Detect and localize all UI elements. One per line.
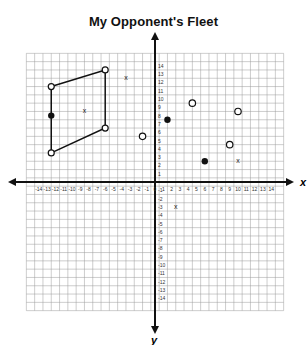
y-tick-label: -11 bbox=[158, 270, 165, 276]
parallelogram-vertex bbox=[102, 125, 108, 131]
miss-marker bbox=[189, 100, 195, 106]
y-tick-label: -7 bbox=[158, 237, 163, 243]
x-tick-label: -13 bbox=[43, 186, 50, 192]
y-tick-label: -2 bbox=[158, 196, 163, 202]
x-tick-label: 8 bbox=[220, 186, 223, 192]
hit-marker bbox=[48, 112, 54, 118]
x-tick-label: -7 bbox=[95, 186, 100, 192]
y-tick-label: 4 bbox=[158, 146, 161, 152]
y-tick-label: -8 bbox=[158, 245, 163, 251]
x-tick-label: -5 bbox=[111, 186, 116, 192]
hit-marker bbox=[164, 117, 170, 123]
x-tick-label: 9 bbox=[228, 186, 231, 192]
y-tick-label: -4 bbox=[158, 212, 163, 218]
x-tick-label: 0 bbox=[154, 186, 157, 192]
x-tick-label: 7 bbox=[212, 186, 215, 192]
y-tick-label: -3 bbox=[158, 204, 163, 210]
y-tick-label: -6 bbox=[158, 229, 163, 235]
y-tick-label: 3 bbox=[158, 154, 161, 160]
parallelogram-vertex bbox=[48, 150, 54, 156]
x-tick-label: 2 bbox=[170, 186, 173, 192]
y-tick-label: -12 bbox=[158, 279, 165, 285]
x-tick-label: -1 bbox=[144, 186, 149, 192]
x-tick-label: 4 bbox=[187, 186, 190, 192]
miss-marker bbox=[235, 108, 241, 114]
x-marker: x bbox=[236, 157, 240, 164]
y-tick-label: 14 bbox=[158, 63, 164, 69]
x-tick-label: -10 bbox=[68, 186, 75, 192]
y-tick-label: 1 bbox=[158, 171, 161, 177]
y-axis-arrow-up bbox=[151, 32, 159, 40]
hit-marker bbox=[202, 158, 208, 164]
x-tick-label: 10 bbox=[235, 186, 241, 192]
y-tick-label: 2 bbox=[158, 162, 161, 168]
x-tick-label: -12 bbox=[52, 186, 59, 192]
y-tick-label: 12 bbox=[158, 79, 164, 85]
x-marker: x bbox=[124, 74, 128, 81]
parallelogram-vertex bbox=[102, 67, 108, 73]
miss-marker bbox=[227, 141, 233, 147]
y-tick-label: -1 bbox=[158, 187, 163, 193]
y-tick-label: 5 bbox=[158, 138, 161, 144]
x-axis-arrow-left bbox=[8, 178, 16, 186]
y-tick-label: -10 bbox=[158, 262, 165, 268]
y-tick-label: -14 bbox=[158, 295, 165, 301]
x-tick-label: -6 bbox=[103, 186, 108, 192]
y-tick-label: 9 bbox=[158, 104, 161, 110]
x-tick-label: -3 bbox=[128, 186, 133, 192]
x-tick-label: 5 bbox=[195, 186, 198, 192]
x-tick-label: 6 bbox=[203, 186, 206, 192]
x-tick-label: 12 bbox=[252, 186, 258, 192]
y-tick-label: 10 bbox=[158, 96, 164, 102]
y-tick-label: 7 bbox=[158, 121, 161, 127]
x-tick-label: 3 bbox=[179, 186, 182, 192]
y-tick-label: -13 bbox=[158, 287, 165, 293]
y-tick-label: 6 bbox=[158, 129, 161, 135]
x-axis-label: x bbox=[299, 176, 307, 188]
x-tick-label: -9 bbox=[78, 186, 83, 192]
x-tick-label: -14 bbox=[35, 186, 42, 192]
y-axis-label: y bbox=[150, 334, 158, 345]
x-marker: x bbox=[174, 203, 178, 210]
chart-container: My Opponent's Fleet xy-14-13-12-11-10-9-… bbox=[0, 0, 307, 345]
y-tick-label: 11 bbox=[158, 88, 163, 94]
coordinate-plane: xy-14-13-12-11-10-9-8-7-6-5-4-3-2-101234… bbox=[0, 0, 307, 345]
y-axis-arrow-down bbox=[151, 326, 159, 334]
y-tick-label: -5 bbox=[158, 221, 163, 227]
parallelogram-vertex bbox=[48, 84, 54, 90]
y-tick-label: -9 bbox=[158, 254, 163, 260]
x-tick-label: -2 bbox=[136, 186, 141, 192]
x-tick-label: -11 bbox=[60, 186, 67, 192]
y-tick-label: 13 bbox=[158, 71, 164, 77]
x-tick-label: -8 bbox=[86, 186, 91, 192]
x-marker: x bbox=[83, 107, 87, 114]
x-tick-label: 13 bbox=[260, 186, 266, 192]
miss-marker bbox=[139, 133, 145, 139]
x-tick-label: -4 bbox=[120, 186, 125, 192]
x-tick-label: 14 bbox=[268, 186, 274, 192]
x-axis-arrow-right bbox=[286, 178, 294, 186]
y-tick-label: 8 bbox=[158, 113, 161, 119]
x-tick-label: 11 bbox=[244, 186, 249, 192]
